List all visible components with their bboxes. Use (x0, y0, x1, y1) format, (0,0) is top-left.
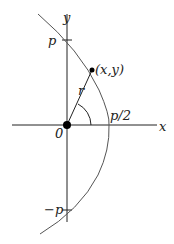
p-bottom-label: −p (44, 202, 64, 217)
diagram-canvas: y x p −p p/2 (x,y) r 0 (0, 0, 174, 244)
p-top-label: p (48, 33, 57, 48)
radius-label: r (78, 83, 85, 98)
x-axis-label: x (159, 119, 167, 134)
curve-point (90, 68, 95, 73)
y-axis-label: y (62, 10, 71, 25)
origin-label: 0 (55, 126, 63, 141)
origin-point (63, 121, 71, 129)
vertex-label: p/2 (110, 108, 131, 123)
angle-arc (78, 104, 91, 125)
point-label: (x,y) (95, 62, 124, 77)
